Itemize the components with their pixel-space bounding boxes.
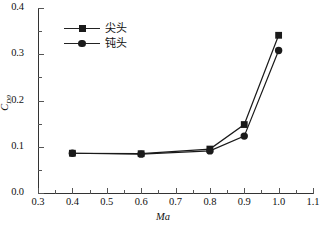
circle-data-marker <box>241 132 248 139</box>
circle-marker-icon <box>78 40 86 48</box>
square-data-marker <box>241 121 248 128</box>
y-axis-title-base: C <box>0 104 10 111</box>
data-series-layer <box>0 0 326 229</box>
circle-data-marker <box>137 150 144 157</box>
legend-line-square <box>64 28 100 29</box>
legend-label-sharp-nose: 尖头 <box>105 23 127 35</box>
legend-item-sharp-nose: 尖头 <box>64 21 127 36</box>
series-line <box>72 51 278 155</box>
legend-line-circle <box>64 43 100 44</box>
y-axis-title: CD0 <box>0 81 13 125</box>
legend-item-blunt-nose: 钝头 <box>64 36 127 51</box>
circle-data-marker <box>275 47 282 54</box>
y-axis-title-subscript: D0 <box>5 95 13 104</box>
circle-data-marker <box>69 150 76 157</box>
x-axis-title: Ma <box>0 211 326 222</box>
drag-coefficient-line-chart: 0.00.10.20.30.4 0.30.40.50.60.70.80.91.0… <box>0 0 326 229</box>
chart-legend: 尖头 钝头 <box>64 21 127 51</box>
square-marker-icon <box>79 25 86 32</box>
square-data-marker <box>275 32 282 39</box>
circle-data-marker <box>206 147 213 154</box>
series-2 <box>69 47 283 158</box>
legend-label-blunt-nose: 钝头 <box>105 38 127 50</box>
